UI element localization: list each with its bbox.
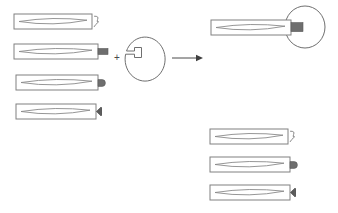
byproduct-with-squiggle [210,129,295,144]
block-tab-icon [98,49,108,55]
plus-sign: + [114,52,120,63]
bar-with-round-tab [16,75,105,90]
arrow-head-icon [196,55,203,61]
bar-with-squiggle [14,14,99,29]
reaction-arrow [172,55,203,61]
byproduct-with-round-tab [210,157,297,172]
notched-circle-outline [125,37,165,81]
triangle-tab-icon [96,108,100,116]
byproduct-bars-group [210,129,297,200]
squiggle-icon [94,16,98,26]
round-tab-icon [290,162,297,169]
round-tab-icon [98,80,105,87]
diagram-canvas: + [0,0,338,213]
triangle-tab-stem [100,107,102,116]
triangle-tab-stem [294,188,296,197]
reaction-scheme-diagram: + [0,0,338,213]
squiggle-icon [290,131,294,141]
inserted-tab-icon [291,23,303,32]
triangle-tab-icon [290,189,294,197]
reactant-bars-group [14,14,108,119]
byproduct-with-triangle-tab [210,185,296,200]
bar-with-triangle-tab [16,104,102,119]
notched-circle [125,37,165,81]
product-assembly [211,6,325,48]
bar-with-block-tab [14,44,108,59]
